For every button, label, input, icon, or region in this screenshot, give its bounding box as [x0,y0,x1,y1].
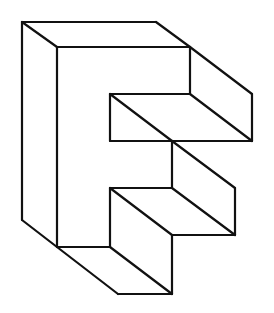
edge-line [22,220,57,247]
letter-f-3d-drawing [0,0,274,313]
edge-line [190,94,252,141]
drawing-edges [22,22,252,294]
edge-line [22,22,57,47]
edge-line [110,188,172,235]
edge-line [156,22,190,47]
edge-line [172,141,235,188]
edge-line [57,247,118,294]
edge-line [172,188,235,235]
edge-line [190,47,252,94]
edge-line [110,247,172,294]
edge-line [110,94,172,141]
